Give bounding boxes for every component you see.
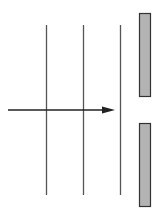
slit-barrier xyxy=(140,14,151,207)
barrier-top xyxy=(140,14,151,97)
propagation-arrow xyxy=(8,107,115,114)
arrowhead-icon xyxy=(102,107,115,114)
diagram-canvas xyxy=(0,0,164,210)
barrier-bottom xyxy=(140,124,151,207)
